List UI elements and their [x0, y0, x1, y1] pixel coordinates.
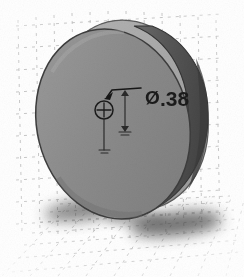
- scan-grain-overlay: [0, 0, 244, 277]
- cad-image-viewport: Ø .38: [0, 0, 244, 277]
- cad-scene: Ø .38: [0, 0, 244, 277]
